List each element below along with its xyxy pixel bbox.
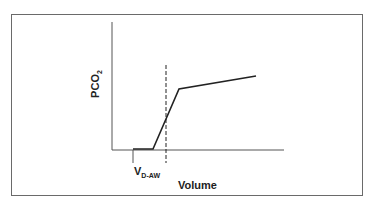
x-axis-label: Volume <box>178 179 217 191</box>
y-axis-label: PCO2 <box>89 69 105 99</box>
pco2-curve <box>133 76 256 149</box>
dead-space-label: VD-AW <box>134 165 160 179</box>
plot-area <box>0 0 371 207</box>
